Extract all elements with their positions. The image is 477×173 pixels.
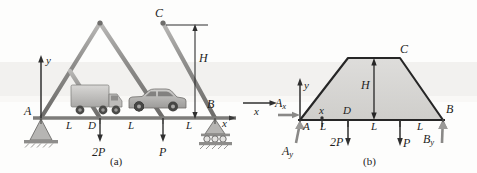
panel-b-label-y-axis: y: [304, 80, 309, 91]
panel-b-label-A: A: [303, 121, 310, 132]
panel-a-label-C: C: [155, 7, 163, 19]
panel-b-label-H: H: [361, 79, 370, 91]
panel-a-y-axis: [38, 55, 44, 118]
panel-a-label-L1: L: [66, 120, 72, 131]
panel-a-caption: (a): [110, 155, 122, 167]
roller-support-b: [438, 121, 448, 129]
panel-b-label-By: By: [423, 133, 434, 147]
panel-a-label-x-axis: x: [222, 118, 227, 129]
panel-a-label-y-axis: y: [46, 55, 51, 66]
panel-b-label-L2: L: [371, 121, 377, 132]
roller-wheel: [212, 136, 218, 142]
reaction-arrow-Ax: [278, 112, 300, 118]
panel-a-label-L2: L: [128, 120, 134, 131]
panel-b-y-axis: [297, 78, 302, 120]
panel-a-label-load-P: P: [159, 146, 166, 158]
panel-b-label-B: B: [446, 103, 453, 115]
figure-root: A B C D y x H L L L 2P P (a) A B C D y x…: [0, 0, 477, 173]
joint-apex: [97, 20, 102, 25]
roller-wheel: [204, 136, 210, 142]
sedan-car-icon: [129, 89, 186, 112]
panel-b-label-Ay: Ay: [282, 145, 293, 159]
panel-b-label-load-2P: 2P: [330, 136, 343, 148]
panel-a-deck: [33, 116, 236, 121]
panel-b-label-x-station: x: [319, 105, 324, 116]
panel-b-caption: (b): [363, 155, 376, 167]
joint-C: [160, 20, 165, 25]
panel-b-label-load-P: P: [403, 137, 410, 149]
panel-b-label-x-axis: x: [254, 106, 259, 117]
roller-wheel: [220, 136, 226, 142]
panel-b-label-L1: L: [320, 121, 326, 132]
panel-b-label-C: C: [400, 43, 408, 55]
reaction-Ax-sub: x: [282, 101, 286, 111]
panel-b-x-axis: [243, 100, 277, 105]
panel-a-truss: [41, 20, 215, 118]
panel-a-label-A: A: [24, 105, 31, 117]
panel-a-label-load-2P: 2P: [92, 146, 105, 158]
panel-b-label-L3: L: [417, 121, 423, 132]
panel-a-label-L3: L: [186, 120, 192, 131]
reaction-By-sub: y: [430, 137, 434, 147]
reaction-Ay-sub: y: [289, 149, 293, 159]
panel-b-label-D: D: [343, 105, 351, 116]
panel-a-label-B: B: [207, 98, 214, 110]
panel-a-label-D: D: [88, 120, 96, 131]
panel-a-vehicles: [71, 85, 186, 114]
panel-b-label-Ax: Ax: [275, 97, 286, 111]
panel-a-label-H: H: [199, 52, 208, 64]
